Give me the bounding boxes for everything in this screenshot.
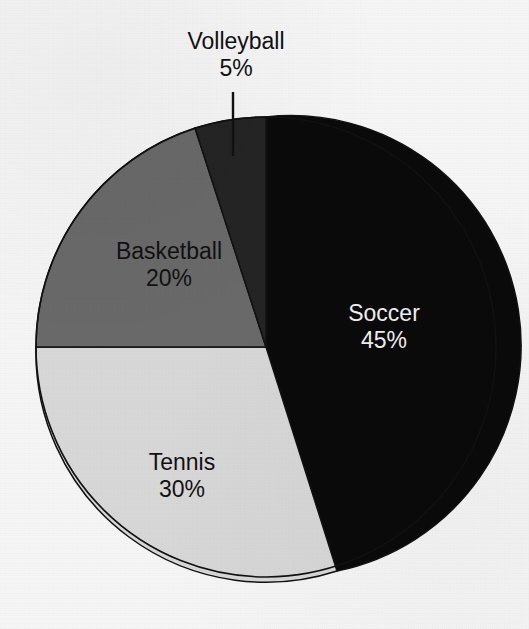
pie-label-basketball-name: Basketball [78,238,260,265]
pie-label-tennis-percent: 30% [112,476,252,503]
pie-label-volleyball-name: Volleyball [152,28,320,55]
pie-label-tennis: Tennis 30% [112,449,252,503]
pie-chart-figure: Soccer 45% Tennis 30% Basketball 20% Vol… [0,0,529,629]
pie-label-basketball: Basketball 20% [78,238,260,292]
pie-label-soccer-name: Soccer [318,300,450,327]
pie-label-volleyball: Volleyball 5% [152,28,320,82]
pie-label-soccer: Soccer 45% [318,300,450,354]
pie-label-volleyball-percent: 5% [152,55,320,82]
pie-label-basketball-percent: 20% [78,265,260,292]
pie-label-soccer-percent: 45% [318,327,450,354]
pie-label-tennis-name: Tennis [112,449,252,476]
